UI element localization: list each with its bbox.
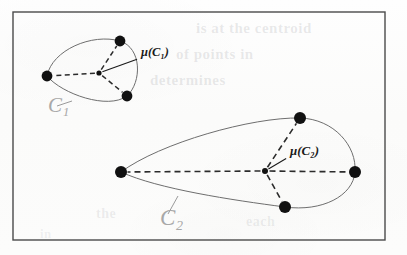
clustering-figure: is at the centroid of points in determin… — [0, 0, 407, 255]
cluster-c2-spokes — [127, 123, 348, 201]
data-point — [115, 36, 126, 47]
data-point — [294, 112, 306, 124]
cluster-c1: μ(C₁) C₁ — [42, 36, 169, 117]
cluster-c2: μ(C₂) C₂ — [115, 112, 361, 230]
cluster-c2-points — [115, 112, 361, 213]
spoke-to-point — [127, 171, 260, 172]
data-point — [279, 201, 291, 213]
spoke-to-point — [269, 171, 348, 172]
centroid-label-pointer — [268, 159, 286, 169]
spoke-to-point — [101, 46, 117, 70]
data-point — [115, 166, 127, 178]
figure-canvas: μ(C₁) C₁ μ(C₂) C₂ — [0, 0, 407, 255]
cluster-label-c2: C₂ — [160, 205, 183, 230]
cluster-c1-points — [42, 36, 133, 102]
spoke-to-point — [53, 73, 95, 75]
centroid-label-c2: μ(C₂) — [289, 143, 319, 158]
cluster-label-c1: C₁ — [48, 93, 69, 117]
centroid-marker-c2 — [262, 168, 268, 174]
spoke-to-point — [267, 175, 282, 201]
cluster-c2-outline — [121, 118, 355, 208]
centroid-marker-c1 — [96, 70, 101, 75]
data-point — [122, 91, 133, 102]
spoke-to-point — [102, 76, 122, 93]
data-point — [42, 71, 53, 82]
centroid-label-c1: μ(C₁) — [140, 45, 169, 59]
data-point — [349, 166, 361, 178]
